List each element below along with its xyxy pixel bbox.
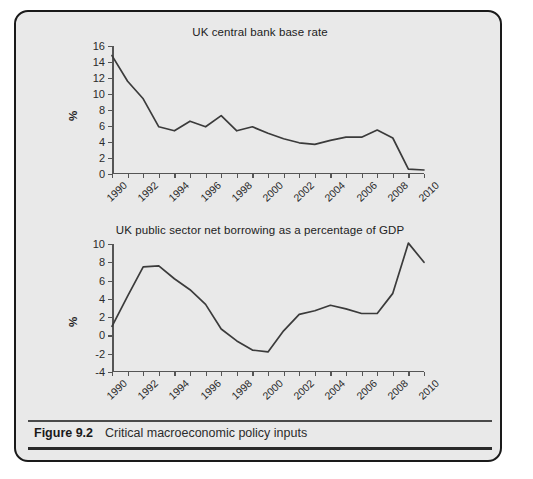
x-tick-mark <box>128 174 129 178</box>
x-tick-mark <box>252 174 253 178</box>
x-tick-mark <box>284 174 285 178</box>
x-tick-label: 2002 <box>291 179 316 204</box>
y-tick-label: 2 <box>99 311 105 323</box>
x-tick-label: 1996 <box>198 377 223 402</box>
x-tick-label: 1998 <box>229 179 254 204</box>
x-tick-label: 2010 <box>416 179 441 204</box>
x-tick-label: 2000 <box>260 377 285 402</box>
series-path <box>112 243 424 352</box>
x-tick-mark <box>315 174 316 178</box>
x-tick-mark <box>299 174 300 178</box>
y-axis-unit-label: % <box>67 111 79 121</box>
x-tick-label: 1992 <box>135 377 160 402</box>
x-tick-mark <box>143 372 144 376</box>
y-tick-label: 10 <box>93 238 105 250</box>
caption-text: Figure 9.2 Critical macroeconomic policy… <box>34 426 307 440</box>
x-tick-mark <box>237 174 238 178</box>
x-tick-mark <box>346 372 347 376</box>
series-line <box>112 46 424 174</box>
y-tick-label: 2 <box>99 152 105 164</box>
y-tick-label: 6 <box>99 275 105 287</box>
x-tick-mark <box>252 372 253 376</box>
x-tick-mark <box>377 372 378 376</box>
y-tick-label: 0 <box>99 168 105 180</box>
x-tick-mark <box>393 174 394 178</box>
x-tick-label: 1994 <box>166 179 191 204</box>
y-tick-label: 4 <box>99 293 105 305</box>
caption-rule-top <box>28 420 492 422</box>
x-tick-label: 1996 <box>198 179 223 204</box>
y-tick-label: -4 <box>95 366 105 378</box>
x-tick-mark <box>221 174 222 178</box>
x-tick-label: 2006 <box>354 179 379 204</box>
x-tick-mark <box>284 372 285 376</box>
y-tick-label: 8 <box>99 256 105 268</box>
x-tick-label: 2004 <box>322 179 347 204</box>
y-tick-label: 4 <box>99 136 105 148</box>
series-path <box>112 56 424 170</box>
x-tick-mark <box>377 174 378 178</box>
x-tick-mark <box>221 372 222 376</box>
x-tick-label: 1994 <box>166 377 191 402</box>
x-tick-mark <box>190 372 191 376</box>
x-tick-mark <box>408 174 409 178</box>
y-tick-label: 10 <box>93 88 105 100</box>
x-tick-mark <box>330 372 331 376</box>
x-tick-mark <box>330 174 331 178</box>
x-tick-mark <box>112 372 113 376</box>
y-tick-label: -2 <box>95 348 105 360</box>
caption-title: Critical macroeconomic policy inputs <box>105 426 307 440</box>
y-tick-label: 6 <box>99 120 105 132</box>
x-tick-label: 2006 <box>354 377 379 402</box>
x-tick-label: 2010 <box>416 377 441 402</box>
x-tick-label: 2008 <box>385 179 410 204</box>
x-tick-mark <box>159 372 160 376</box>
x-tick-mark <box>159 174 160 178</box>
x-tick-mark <box>143 174 144 178</box>
y-tick-label: 8 <box>99 104 105 116</box>
x-tick-mark <box>174 174 175 178</box>
x-tick-mark <box>362 174 363 178</box>
x-tick-mark <box>346 174 347 178</box>
caption-label: Figure 9.2 <box>34 426 93 440</box>
x-tick-mark <box>190 174 191 178</box>
x-tick-label: 1990 <box>104 377 129 402</box>
x-tick-mark <box>206 372 207 376</box>
x-tick-mark <box>206 174 207 178</box>
series-line <box>112 244 424 372</box>
x-tick-label: 2002 <box>291 377 316 402</box>
x-tick-mark <box>424 174 425 178</box>
y-tick-label: 0 <box>99 329 105 341</box>
chart-public-sector-net-borrowing: UK public sector net borrowing as a perc… <box>16 224 504 420</box>
x-tick-mark <box>237 372 238 376</box>
x-tick-mark <box>299 372 300 376</box>
x-tick-mark <box>315 372 316 376</box>
x-tick-label: 1998 <box>229 377 254 402</box>
x-tick-mark <box>268 174 269 178</box>
x-tick-label: 2000 <box>260 179 285 204</box>
y-axis-unit-label: % <box>67 317 79 327</box>
x-tick-label: 1990 <box>104 179 129 204</box>
y-tick-label: 16 <box>93 40 105 52</box>
x-tick-mark <box>362 372 363 376</box>
y-tick-label: 14 <box>93 56 105 68</box>
x-tick-mark <box>408 372 409 376</box>
chart-title: UK central bank base rate <box>16 26 504 38</box>
figure-caption-bar: Figure 9.2 Critical macroeconomic policy… <box>28 420 492 450</box>
x-tick-mark <box>174 372 175 376</box>
plot-area: 0246810121416 19901992199419961998200020… <box>112 46 424 174</box>
x-tick-label: 2004 <box>322 377 347 402</box>
x-tick-label: 2008 <box>385 377 410 402</box>
plot-area: -4-20246810 1990199219941996199820002002… <box>112 244 424 372</box>
figure-panel: UK central bank base rate % 024681012141… <box>14 10 502 462</box>
x-tick-mark <box>268 372 269 376</box>
caption-rule-bottom <box>28 447 492 450</box>
chart-title: UK public sector net borrowing as a perc… <box>16 224 504 236</box>
chart-central-bank-base-rate: UK central bank base rate % 024681012141… <box>16 26 504 221</box>
x-tick-mark <box>424 372 425 376</box>
y-tick-label: 12 <box>93 72 105 84</box>
x-tick-mark <box>393 372 394 376</box>
x-tick-label: 1992 <box>135 179 160 204</box>
x-tick-mark <box>112 174 113 178</box>
x-tick-mark <box>128 372 129 376</box>
